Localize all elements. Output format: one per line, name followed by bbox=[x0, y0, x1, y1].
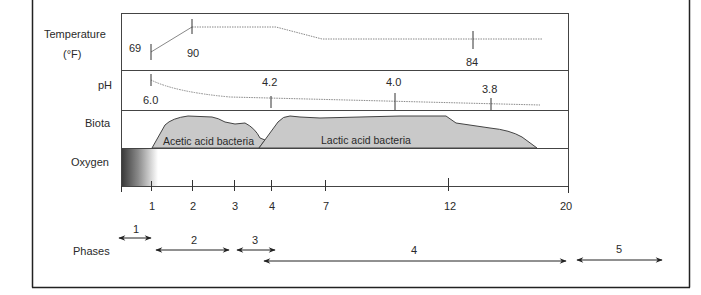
oxygen-gradient bbox=[122, 149, 158, 186]
time-tick-1: 1 bbox=[149, 200, 155, 213]
time-tick-3: 3 bbox=[232, 200, 238, 213]
time-tick-20: 20 bbox=[560, 200, 572, 213]
phase-label-3: 3 bbox=[252, 234, 258, 247]
fermentation-diagram: Temperature (°F) pH Biota Oxygen Phases … bbox=[0, 0, 701, 295]
phase-label-1: 1 bbox=[133, 223, 139, 236]
time-tick-2: 2 bbox=[190, 200, 196, 213]
temperature-value-84: 84 bbox=[466, 56, 478, 69]
ph-value-4-2: 4.2 bbox=[262, 76, 277, 89]
biota-lactic-acid-bacteria: Lactic acid bacteria bbox=[321, 134, 411, 147]
ph-value-3-8: 3.8 bbox=[482, 83, 497, 96]
time-tick-4: 4 bbox=[269, 200, 275, 213]
phase-label-2: 2 bbox=[191, 234, 197, 247]
temperature-value-90: 90 bbox=[187, 47, 199, 60]
ph-value-4-0: 4.0 bbox=[386, 76, 401, 89]
temperature-line bbox=[151, 19, 542, 60]
row-label-phases: Phases bbox=[73, 245, 110, 258]
row-label-temperature: Temperature bbox=[44, 28, 106, 41]
time-tick-12: 12 bbox=[444, 200, 456, 213]
phase-label-5: 5 bbox=[616, 243, 622, 256]
phase-label-4: 4 bbox=[411, 244, 417, 257]
row-label-ph: pH bbox=[98, 79, 112, 92]
row-label-temperature-unit: (°F) bbox=[63, 48, 81, 61]
ph-value-6-0: 6.0 bbox=[143, 94, 158, 107]
time-axis bbox=[122, 178, 569, 193]
biota-acetic-acid-bacteria: Acetic acid bacteria bbox=[163, 135, 254, 148]
time-tick-7: 7 bbox=[323, 200, 329, 213]
row-label-biota: Biota bbox=[85, 117, 110, 130]
temperature-value-69: 69 bbox=[129, 42, 141, 55]
phase-arrows bbox=[119, 238, 662, 261]
row-label-oxygen: Oxygen bbox=[71, 156, 109, 169]
